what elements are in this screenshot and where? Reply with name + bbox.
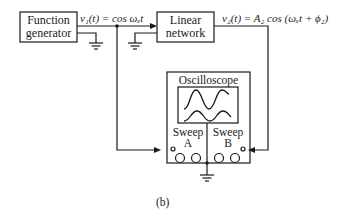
- function-generator-label: Function generator: [20, 14, 77, 40]
- linear-network-label: Linear network: [157, 14, 214, 40]
- arrow-into-network-icon: [150, 23, 157, 29]
- sweep-b-knob-2-icon: [231, 154, 240, 163]
- output-signal-equation: v₂(t) = A₂ cos (ωₓt + ϕ₂): [222, 13, 328, 24]
- sweep-a-knob-2-icon: [192, 154, 201, 163]
- figure-caption: (b): [156, 197, 169, 209]
- input-signal-equation: v₁(t) = cos ωₓt: [80, 13, 143, 24]
- waveform-input-icon: [184, 90, 229, 109]
- sweep-a-knob-1-icon: [176, 154, 185, 163]
- arrow-into-sweep-a-icon: [154, 147, 161, 153]
- linear-network-line2: network: [157, 27, 214, 40]
- arrow-into-sweep-b-icon: [248, 147, 255, 153]
- function-generator-line2: generator: [20, 27, 77, 40]
- sweep-a-label: Sweep A: [170, 127, 206, 149]
- oscilloscope-screen: [178, 87, 238, 123]
- sweep-a-line2: A: [170, 138, 206, 149]
- sweep-b-label: Sweep B: [209, 127, 247, 149]
- oscilloscope-title: Oscilloscope: [167, 75, 250, 87]
- sweep-b-knob-1-icon: [215, 154, 224, 163]
- waveform-output-icon: [184, 111, 231, 121]
- sweep-b-line2: B: [209, 138, 247, 149]
